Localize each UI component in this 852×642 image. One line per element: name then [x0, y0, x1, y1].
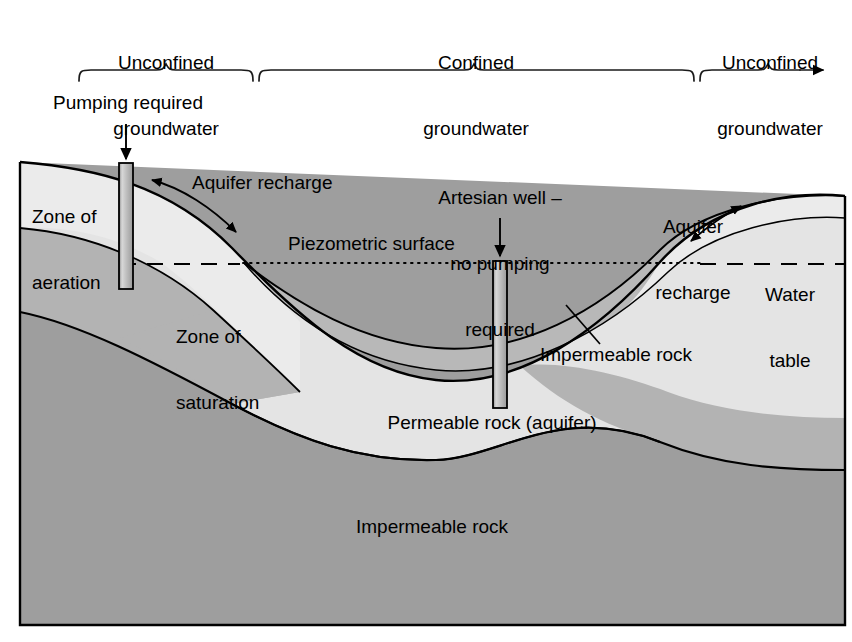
zone-of-saturation-label: Zone of saturation [176, 282, 259, 458]
zone-of-saturation-label-line1: Zone of [176, 326, 259, 348]
scale-label-unconfined-right: Unconfined groundwater [717, 8, 823, 184]
artesian-well-label-line2: no pumping [438, 253, 562, 275]
permeable-rock-label: Permeable rock (aquifer) [387, 412, 596, 434]
water-table-label-line1: Water [765, 284, 815, 306]
zone-of-saturation-label-line2: saturation [176, 392, 259, 414]
water-table-label: Water table [765, 240, 815, 416]
scale-label-confined-line2: groundwater [423, 118, 529, 140]
zone-of-aeration-label-line1: Zone of [32, 206, 101, 228]
artesian-well-label-line3: required [438, 319, 562, 341]
scale-label-unconfined-right-line2: groundwater [717, 118, 823, 140]
zone-of-aeration-label: Zone of aeration [32, 162, 101, 338]
water-table-label-line2: table [765, 350, 815, 372]
pumping-required-label: Pumping required [53, 92, 203, 114]
artesian-well-label-line1: Artesian well – [438, 187, 562, 209]
groundwater-diagram: Unconfined groundwater Confined groundwa… [0, 0, 852, 642]
scale-label-unconfined-right-line1: Unconfined [717, 52, 823, 74]
aquifer-recharge-left-label: Aquifer recharge [192, 172, 332, 194]
basement-impermeable-rock-label: Impermeable rock [356, 516, 508, 538]
confining-impermeable-rock-label: Impermeable rock [540, 344, 692, 366]
aquifer-recharge-right-label-line1: Aquifer [656, 216, 731, 238]
scale-label-confined-line1: Confined [423, 52, 529, 74]
scale-label-unconfined-left-line1: Unconfined [113, 52, 219, 74]
aquifer-recharge-right-label-line2: recharge [656, 282, 731, 304]
piezometric-surface-label: Piezometric surface [288, 233, 455, 255]
zone-of-aeration-label-line2: aeration [32, 272, 101, 294]
scale-label-unconfined-left-line2: groundwater [113, 118, 219, 140]
aquifer-recharge-right-label: Aquifer recharge [656, 172, 731, 348]
